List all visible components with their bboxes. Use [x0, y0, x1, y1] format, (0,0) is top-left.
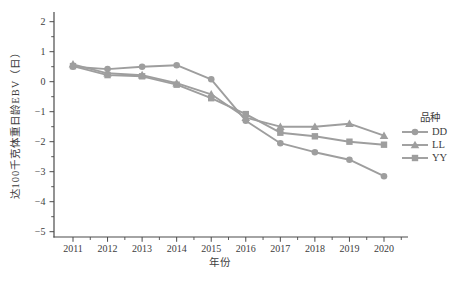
legend-label-DD: DD — [432, 125, 447, 138]
y-tick-label: −3 — [35, 166, 46, 177]
series-YY-marker — [173, 82, 179, 88]
y-tick-label: −2 — [35, 136, 46, 147]
legend-square-swatch — [402, 152, 428, 164]
circle-icon — [412, 128, 419, 135]
legend-item-LL: LL — [400, 138, 464, 151]
series-YY-marker — [312, 133, 318, 139]
legend-triangle-swatch — [402, 139, 428, 151]
series-YY-marker — [70, 63, 76, 69]
x-tick-label: 2015 — [201, 243, 221, 254]
x-tick-label: 2013 — [132, 243, 152, 254]
x-tick-label: 2014 — [167, 243, 187, 254]
series-DD-marker — [139, 63, 146, 70]
legend-circle-swatch — [402, 126, 428, 138]
series-DD-marker — [312, 149, 319, 156]
x-tick-label: 2018 — [305, 243, 325, 254]
y-tick-label: 2 — [41, 16, 46, 27]
series-YY-marker — [208, 95, 214, 101]
legend-item-YY: YY — [400, 151, 464, 164]
series-YY-marker — [104, 72, 110, 78]
y-tick-label: −1 — [35, 106, 46, 117]
series-YY-marker — [139, 73, 145, 79]
y-tick-label: 0 — [41, 76, 46, 87]
legend-label-YY: YY — [432, 151, 447, 164]
series-DD-marker — [381, 173, 388, 180]
y-tick-label: −4 — [35, 196, 46, 207]
x-tick-label: 2020 — [374, 243, 394, 254]
x-axis-title: 年份 — [54, 254, 386, 269]
series-DD-marker — [208, 76, 215, 83]
x-tick-label: 2016 — [236, 243, 256, 254]
legend-item-DD: DD — [400, 125, 464, 138]
legend: 品种 DDLLYY — [400, 109, 464, 164]
series-YY-marker — [243, 111, 249, 117]
series-YY-marker — [381, 142, 387, 148]
x-tick-label: 2017 — [270, 243, 290, 254]
legend-title: 品种 — [400, 109, 460, 124]
series-DD-marker — [277, 140, 284, 147]
series-YY-line — [73, 66, 384, 145]
series-DD-marker — [346, 156, 353, 163]
series-YY-marker — [277, 130, 283, 136]
series-DD-line — [73, 65, 384, 176]
legend-label-LL: LL — [432, 138, 445, 151]
legend-entries: DDLLYY — [400, 125, 464, 164]
x-tick-label: 2019 — [339, 243, 359, 254]
y-tick-label: 1 — [41, 46, 46, 57]
x-tick-label: 2012 — [98, 243, 118, 254]
y-axis-title: 达100千克体重日龄EBV（日） — [7, 10, 21, 236]
series-YY-marker — [346, 139, 352, 145]
series-DD-marker — [173, 62, 180, 69]
square-icon — [412, 154, 418, 160]
chart-figure: 210−1−2−3−4−5201120122013201420152016201… — [0, 0, 470, 284]
y-tick-label: −5 — [35, 226, 46, 237]
x-tick-label: 2011 — [63, 243, 83, 254]
